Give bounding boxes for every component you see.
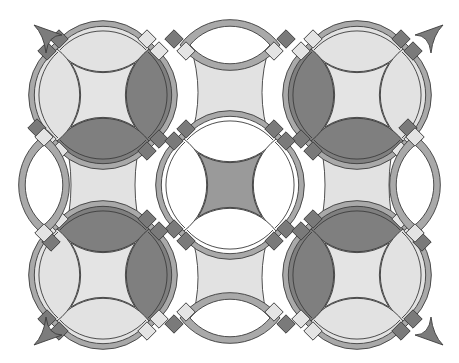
ring-center: [156, 111, 305, 260]
quilt-pattern-canvas: [0, 0, 459, 363]
arc-top-middle: [165, 20, 295, 71]
quilt-pattern-figure: [0, 0, 459, 363]
arc-bottom-middle: [165, 293, 295, 344]
ring-center-square: [71, 63, 135, 127]
ring-center-square: [71, 243, 135, 307]
ring-center-square: [325, 243, 389, 307]
ring-center-square: [325, 63, 389, 127]
ring-center-square: [198, 153, 262, 217]
